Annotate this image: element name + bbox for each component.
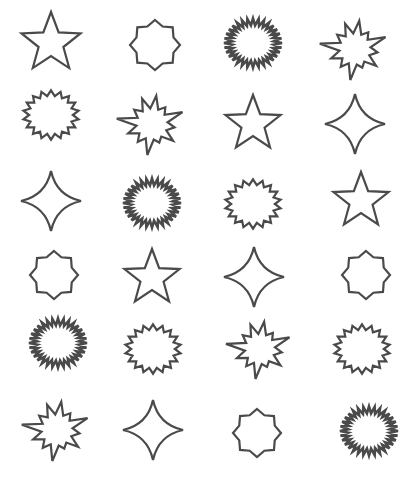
octagram-icon (24, 245, 84, 305)
seal-icon (219, 170, 287, 238)
dense-seal-icon (218, 8, 288, 78)
dense-seal-icon (117, 168, 187, 238)
sparkle4-icon (15, 165, 87, 237)
sparkle4-icon (117, 394, 189, 466)
seal-icon (328, 315, 396, 383)
burst-icon (225, 314, 295, 384)
burst-icon (319, 13, 391, 85)
seal-icon (119, 315, 187, 383)
seal-icon (17, 81, 85, 149)
star5-icon (326, 166, 396, 236)
dense-seal-icon (23, 308, 93, 378)
burst-icon (116, 88, 188, 160)
burst-icon (21, 394, 93, 466)
star5-icon (14, 6, 88, 80)
star5-icon (218, 89, 288, 159)
shape-sheet (0, 0, 411, 487)
octagram-icon (124, 14, 186, 76)
star5-icon (117, 243, 187, 313)
sparkle4-icon (218, 241, 290, 313)
octagram-icon (336, 245, 396, 305)
dense-seal-icon (334, 396, 404, 466)
octagram-icon (227, 403, 287, 463)
sparkle4-icon (319, 88, 391, 160)
